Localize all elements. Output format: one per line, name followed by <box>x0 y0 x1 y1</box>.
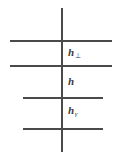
label-subscript: ⊥ <box>75 53 81 60</box>
label-h: h <box>68 76 75 87</box>
label-h-gamma: hγ <box>68 105 77 118</box>
vertical-line <box>61 8 63 152</box>
diagram-canvas: h⊥ h hγ <box>0 0 122 161</box>
label-base: h <box>68 46 74 58</box>
horizontal-line-4 <box>23 128 103 130</box>
horizontal-line-3 <box>23 97 103 99</box>
label-h-perpendicular: h⊥ <box>68 47 81 60</box>
label-base: h <box>68 75 74 87</box>
label-base: h <box>68 104 74 116</box>
label-subscript: γ <box>75 111 78 118</box>
